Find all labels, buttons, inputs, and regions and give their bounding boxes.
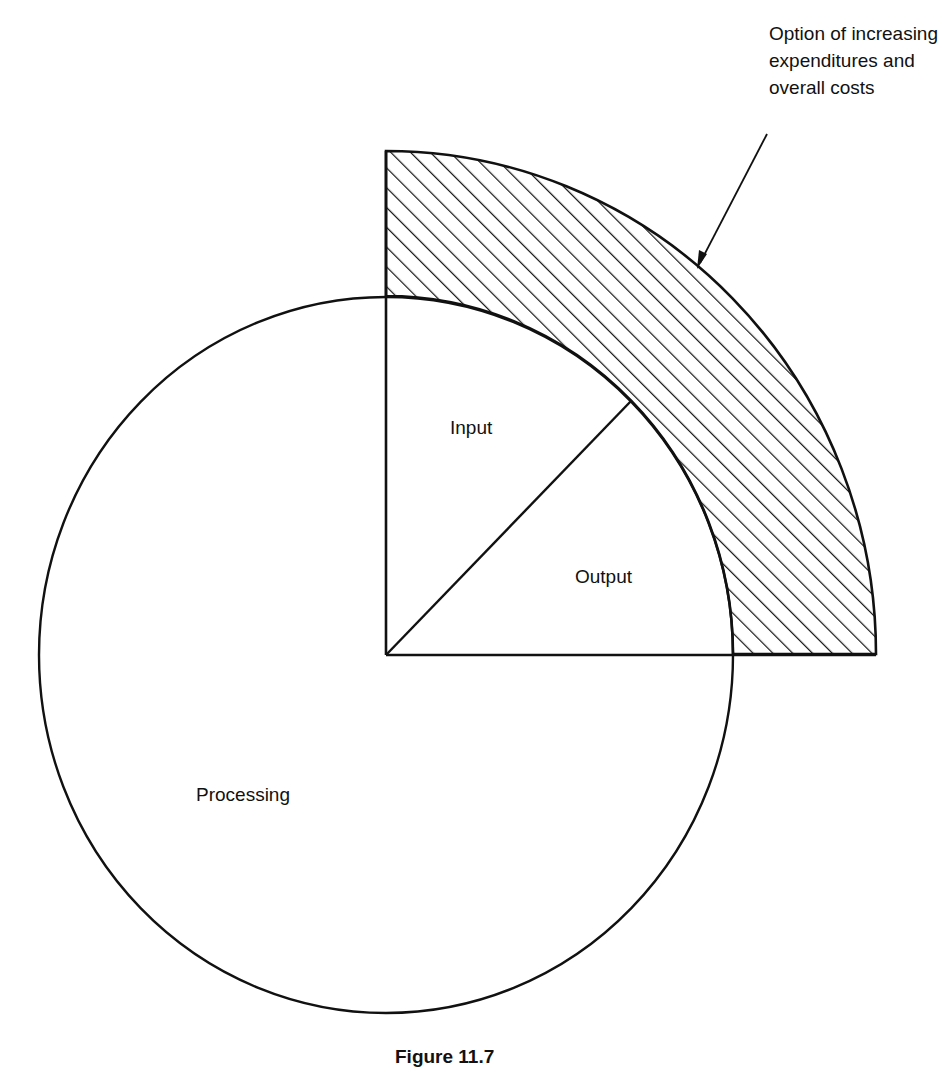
annotation-line-3: overall costs	[769, 74, 938, 101]
input-output-divider	[386, 401, 631, 655]
processing-label: Processing	[196, 784, 290, 806]
annotation-arrow-shaft	[700, 134, 767, 263]
figure-caption: Figure 11.7	[395, 1046, 494, 1068]
annotation-line-1: Option of increasing	[769, 20, 938, 47]
annotation-line-2: expenditures and	[769, 47, 938, 74]
input-label: Input	[450, 417, 492, 439]
output-label: Output	[575, 566, 632, 588]
expansion-annotation: Option of increasing expenditures and ov…	[769, 20, 938, 101]
